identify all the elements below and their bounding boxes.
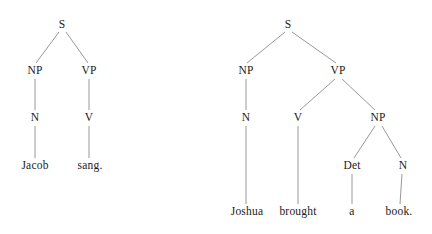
tree-leaf-label: a [349, 206, 354, 218]
tree-node-label: V [294, 112, 303, 124]
tree-leaf-label: Jacob [21, 160, 48, 172]
tree-node-label: NP [238, 65, 253, 77]
tree-edges-layer [0, 0, 432, 234]
tree-node-label: VP [81, 65, 96, 77]
tree-edge [300, 79, 335, 110]
tree-leaf-label: book. [386, 206, 413, 218]
tree-node-label: VP [330, 65, 345, 77]
tree-edge [247, 32, 285, 63]
tree-node-label: N [31, 112, 40, 124]
tree-leaf-label: sang. [78, 160, 103, 172]
tree-edge [382, 126, 401, 158]
tree-node-label: S [285, 19, 292, 31]
tree-edge [66, 32, 88, 63]
tree-edge [400, 174, 402, 204]
tree-edge [342, 79, 375, 110]
tree-edge [292, 32, 336, 63]
tree-leaf-label: brought [279, 206, 316, 218]
tree-node-label: Det [343, 160, 360, 172]
tree-node-label: V [85, 112, 94, 124]
tree-edge [36, 32, 59, 63]
tree-edge [354, 126, 375, 158]
tree-node-label: NP [370, 112, 385, 124]
tree-node-label: NP [27, 65, 42, 77]
tree-node-label: S [59, 19, 66, 31]
tree-leaf-label: Joshua [231, 206, 264, 218]
syntax-tree-figure: SNPVPNVJacobsang.SNPVPNVNPDetNJoshuabrou… [0, 0, 432, 234]
tree-node-label: N [242, 112, 251, 124]
tree-node-label: N [399, 160, 408, 172]
